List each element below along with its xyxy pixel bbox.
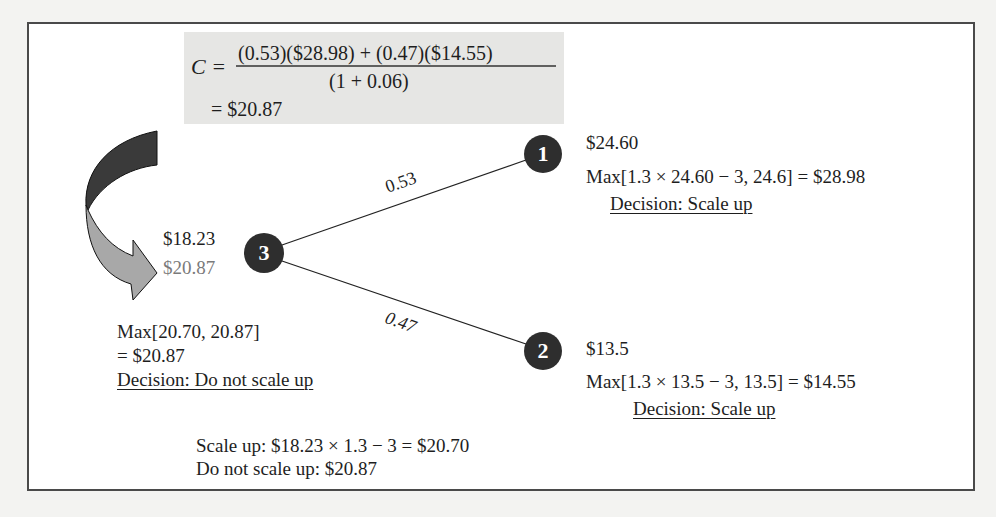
node-1-value: $24.60 (586, 132, 638, 154)
tree-graphics (0, 0, 996, 517)
arrow-dark-band-icon (86, 131, 157, 210)
node-2-label: 2 (523, 331, 563, 371)
node-3-max-result: = $20.87 (117, 345, 185, 367)
node-2-max-expression: Max[1.3 × 13.5 − 3, 13.5] = $14.55 (586, 371, 856, 393)
footnote-scale-up: Scale up: $18.23 × 1.3 − 3 = $20.70 (196, 435, 469, 457)
node-2-decision: Decision: Scale up (633, 398, 775, 420)
node-3-label: 3 (244, 233, 284, 273)
node-3-decision: Decision: Do not scale up (117, 369, 313, 391)
node-1-label: 1 (523, 134, 563, 174)
node-1-decision: Decision: Scale up (610, 193, 752, 215)
footnote-do-not-scale-up: Do not scale up: $20.87 (196, 458, 377, 480)
node-3-option-value: $20.87 (163, 257, 215, 279)
node-2-value: $13.5 (586, 338, 629, 360)
node-3-underlying-value: $18.23 (163, 228, 215, 250)
node-1-max-expression: Max[1.3 × 24.60 − 3, 24.6] = $28.98 (586, 166, 865, 188)
node-3-max-expression: Max[20.70, 20.87] (117, 321, 259, 343)
curved-arrow-icon (86, 205, 157, 300)
